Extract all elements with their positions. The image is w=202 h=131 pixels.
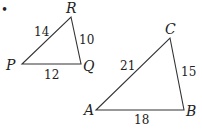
- side-length-ab: 18: [134, 113, 149, 127]
- side-length-pq: 12: [44, 68, 59, 82]
- vertex-label-q: Q: [83, 58, 95, 74]
- triangle-pqr: R P Q 14 10 12: [5, 0, 95, 82]
- side-length-pr: 14: [34, 25, 50, 39]
- bullet-marker: •: [1, 3, 8, 17]
- side-length-ac: 21: [120, 59, 135, 73]
- vertex-label-a: A: [82, 102, 94, 118]
- side-length-cb: 15: [181, 65, 196, 79]
- vertex-label-p: P: [5, 57, 16, 73]
- vertex-label-b: B: [185, 103, 196, 119]
- triangle-abc: C A B 21 15 18: [82, 21, 196, 127]
- vertex-label-r: R: [65, 0, 77, 16]
- triangle-abc-shape: [96, 38, 184, 110]
- triangle-diagram: • R P Q 14 10 12 C A B 21 15 18: [0, 0, 202, 131]
- vertex-label-c: C: [165, 21, 176, 37]
- side-length-rq: 10: [79, 33, 94, 47]
- triangle-pqr-shape: [22, 17, 81, 64]
